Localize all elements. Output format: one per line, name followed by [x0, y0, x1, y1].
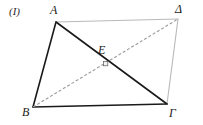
- vertex-label-delta: Δ: [175, 3, 182, 15]
- side-BG-line: [33, 104, 167, 107]
- vertex-label-a: A: [50, 4, 57, 16]
- panel-label: (I): [9, 6, 20, 17]
- vertex-label-gamma: Γ: [169, 107, 176, 119]
- geometry-figure: (I) A Δ B Γ E: [0, 0, 203, 125]
- side-AD-line: [56, 19, 178, 22]
- diagonal-AG-line: [56, 22, 167, 104]
- intersection-point-marker: [104, 62, 108, 66]
- side-AB-line: [33, 22, 56, 107]
- side-DG-line: [167, 19, 178, 104]
- vertex-label-beta: B: [22, 106, 29, 118]
- vertex-label-e: E: [98, 44, 105, 56]
